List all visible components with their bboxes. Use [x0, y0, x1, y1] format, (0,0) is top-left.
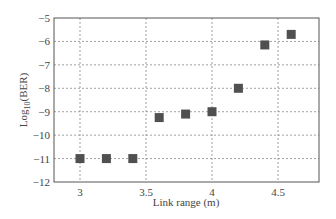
data-point-marker: [181, 110, 190, 119]
data-point-marker: [208, 107, 217, 116]
y-axis-ticks: −5−6−7−8−9−10−11−12: [33, 12, 51, 188]
ber-scatter-chart: 33.544.5 −5−6−7−8−9−10−11−12 Link range …: [0, 0, 336, 219]
y-axis-label-prefix: Log: [17, 109, 29, 127]
data-point-marker: [102, 154, 111, 163]
x-tick-label: 3: [77, 186, 83, 198]
data-point-marker: [234, 84, 243, 93]
x-tick-label: 3.5: [139, 186, 153, 198]
y-tick-label: −7: [38, 59, 50, 71]
data-point-marker: [128, 154, 137, 163]
y-tick-label: −5: [38, 12, 50, 24]
grid-lines: [54, 18, 319, 182]
data-point-marker: [287, 30, 296, 39]
y-tick-label: −8: [38, 82, 50, 94]
data-point-marker: [260, 40, 269, 49]
y-axis-label-sub: 10: [23, 102, 32, 110]
y-tick-label: −10: [33, 129, 51, 141]
y-tick-label: −6: [38, 35, 50, 47]
data-points: [76, 30, 296, 163]
x-tick-label: 4.5: [271, 186, 285, 198]
y-axis-label: Log10(BER): [17, 72, 32, 127]
plot-frame: [54, 18, 319, 182]
y-axis-label-suffix: (BER): [17, 72, 30, 101]
y-tick-label: −12: [33, 176, 50, 188]
y-tick-label: −9: [38, 106, 50, 118]
data-point-marker: [76, 154, 85, 163]
y-tick-label: −11: [33, 153, 50, 165]
data-point-marker: [155, 113, 164, 122]
x-axis-label: Link range (m): [153, 196, 220, 209]
